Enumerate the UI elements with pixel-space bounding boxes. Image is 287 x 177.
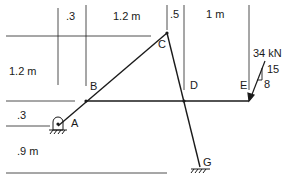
point-label-e: E: [240, 80, 247, 91]
point-label-b: B: [90, 81, 97, 92]
joint-C: [165, 31, 168, 34]
load-slope-horizontal: 8: [264, 79, 270, 90]
point-label-c: C: [158, 39, 166, 50]
point-label-d: D: [190, 80, 198, 91]
dim-top-3: 1 m: [206, 9, 224, 20]
load-slope-vertical: 15: [267, 64, 279, 75]
ground-support-icon: [191, 169, 210, 173]
load-magnitude: 34 kN: [253, 48, 282, 59]
dim-top-1: 1.2 m: [113, 11, 141, 22]
dimension-lines: [6, 5, 249, 173]
point-label-a: A: [71, 118, 78, 129]
dim-left-2: .9 m: [17, 146, 38, 157]
dim-left-0: 1.2 m: [9, 66, 37, 77]
load-arrow-icon: [248, 61, 265, 101]
dim-left-1: .3: [17, 110, 26, 121]
joint-D: [182, 99, 185, 102]
joint-B: [84, 99, 87, 102]
dim-top-0: .3: [66, 11, 75, 22]
dim-top-2: .5: [170, 9, 179, 20]
member-ABC: [58, 33, 167, 126]
point-label-g: G: [203, 157, 212, 168]
joint-A: [56, 122, 59, 125]
